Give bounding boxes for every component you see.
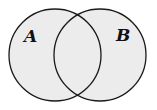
venn-diagram: A B <box>0 0 157 110</box>
set-a-label: A <box>22 26 37 46</box>
set-b-label: B <box>115 25 130 45</box>
